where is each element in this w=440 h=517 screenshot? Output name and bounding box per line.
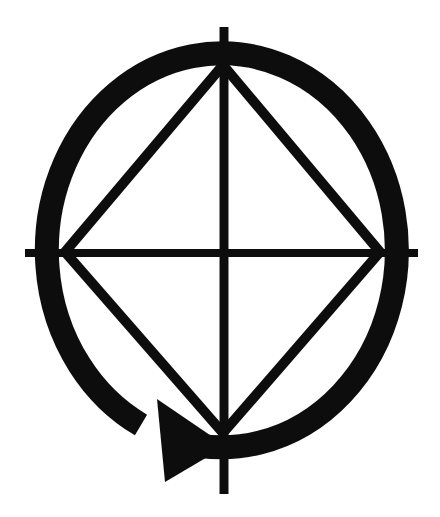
symbol-group	[25, 27, 418, 494]
symbol-canvas	[0, 0, 440, 517]
arrowhead-icon	[157, 399, 226, 482]
rotation-symbol	[0, 0, 440, 517]
